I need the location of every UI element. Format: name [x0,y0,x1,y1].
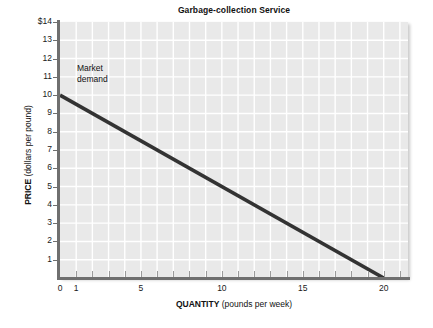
x-tick-5 [141,271,142,277]
x-tick-18 [351,271,352,277]
x-tick-14 [287,271,288,277]
y-tick-12 [53,59,57,60]
y-tick-14 [53,22,57,23]
y-tick-label-4: 4 [47,200,52,209]
x-axis-spine [57,277,410,280]
x-tick-17 [335,271,336,277]
x-tick-7 [173,271,174,277]
y-tick-2 [53,241,57,242]
x-axis-title-bold: QUANTITY [176,299,219,309]
y-tick-9 [53,113,57,114]
x-tick-label-1: 1 [64,283,88,293]
demand-curve [60,22,408,278]
x-tick-13 [270,271,271,277]
y-tick-label-10: 10 [43,90,52,99]
x-tick-21 [400,271,401,277]
y-tick-6 [53,168,57,169]
x-tick-20 [384,271,385,277]
x-tick-19 [368,271,369,277]
y-tick-label-11: 11 [43,72,52,81]
y-tick-3 [53,223,57,224]
y-axis-spine [57,20,60,280]
y-tick-label-13: 13 [43,35,52,44]
x-tick-11 [238,271,239,277]
y-axis-title-bold: PRICE [23,179,33,205]
x-tick-12 [254,271,255,277]
x-tick-3 [109,271,110,277]
page-title: Garbage-collection Service [60,5,408,15]
x-axis-title: QUANTITY (pounds per week) [60,299,408,309]
x-tick-label-10: 10 [210,283,234,293]
x-tick-label-5: 5 [129,283,153,293]
y-tick-13 [53,40,57,41]
y-tick-label-14: $14 [38,17,52,26]
x-tick-4 [125,271,126,277]
y-tick-label-9: 9 [47,108,52,117]
x-tick-8 [189,271,190,277]
y-tick-4 [53,205,57,206]
x-tick-10 [222,271,223,277]
y-tick-10 [53,95,57,96]
y-tick-label-1: 1 [47,255,52,264]
y-tick-label-2: 2 [47,236,52,245]
y-tick-label-5: 5 [47,182,52,191]
x-tick-15 [303,271,304,277]
y-tick-label-8: 8 [47,127,52,136]
x-tick-9 [206,271,207,277]
y-axis-title-rest: (dollars per pound) [23,105,33,179]
x-tick-label-15: 15 [291,283,315,293]
y-tick-8 [53,132,57,133]
y-tick-1 [53,260,57,261]
x-axis-title-rest: (pounds per week) [219,299,292,309]
y-tick-label-3: 3 [47,218,52,227]
plot-area: Market demand [60,22,408,278]
y-tick-label-7: 7 [47,145,52,154]
y-tick-label-12: 12 [43,54,52,63]
x-tick-6 [157,271,158,277]
x-tick-label-20: 20 [372,283,396,293]
x-tick-16 [319,271,320,277]
x-tick-2 [92,271,93,277]
y-axis-title: PRICE (dollars per pound) [23,65,33,245]
x-tick-1 [76,271,77,277]
y-tick-11 [53,77,57,78]
y-tick-label-6: 6 [47,163,52,172]
y-tick-7 [53,150,57,151]
y-tick-5 [53,187,57,188]
